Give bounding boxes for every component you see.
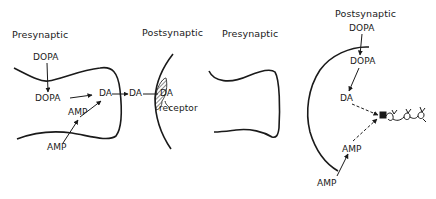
panel3-title: Presynaptic <box>222 29 278 39</box>
panel1-dopa-outside: DOPA <box>33 53 58 62</box>
panel4-da-inside: DA <box>340 94 353 103</box>
panel2-da-cleft: DA <box>129 89 142 98</box>
panel1-amp-inside: AMP <box>68 108 88 117</box>
synapse-diagram: Presynaptic DOPA DOPA DA AMP AMP Postsyn… <box>0 0 436 199</box>
panel4-amp-inside: AMP <box>342 145 362 154</box>
panel1-amp-outside: AMP <box>47 143 67 152</box>
presynaptic-membrane-3 <box>209 70 280 137</box>
panel1-arrows <box>47 63 158 143</box>
presynaptic-membrane-1 <box>14 68 121 139</box>
panel1-title: Presynaptic <box>12 30 68 40</box>
panel4-title: Postsynaptic <box>335 9 396 19</box>
panel4-amp-outside: AMP <box>317 179 337 188</box>
panel4-dopa-inside: DOPA <box>350 57 375 66</box>
panel1-dopa-inside: DOPA <box>35 94 60 103</box>
panel2-da-bound: DA <box>160 89 173 98</box>
panel4-dopa-outside: DOPA <box>349 24 374 33</box>
panel2-title: Postsynaptic <box>142 28 203 38</box>
receptor-chain <box>380 107 426 122</box>
panel1-da-inside: DA <box>99 89 112 98</box>
panel2-receptor-label: receptor <box>159 104 198 113</box>
